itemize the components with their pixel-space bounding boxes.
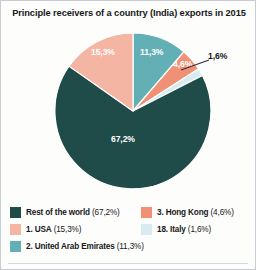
legend-label-united-arab-emirates: 2. United Arab Emirates (11,3%)	[26, 242, 144, 251]
legend-label-italy: 18. Italy (1,6%)	[157, 225, 211, 234]
legend-label-hong-kong: 3. Hong Kong (4,6%)	[157, 208, 234, 217]
legend-name-rest-of-the-world: Rest of the world	[26, 208, 90, 217]
slice-label-usa: 15,3%	[91, 47, 115, 57]
legend-swatch-united-arab-emirates	[10, 241, 21, 252]
pie-chart: 15,3% 11,3% 4,6% 67,2%	[53, 31, 213, 191]
legend-name-hong-kong: 3. Hong Kong	[157, 208, 208, 217]
legend-name-italy: 18. Italy	[157, 225, 186, 234]
pie-svg	[53, 31, 213, 191]
legend-name-united-arab-emirates: 2. United Arab Emirates	[26, 242, 115, 251]
legend-label-rest-of-the-world: Rest of the world (67,2%)	[26, 208, 120, 217]
legend-name-usa: 1. USA	[26, 225, 52, 234]
legend-column-right: 3. Hong Kong (4,6%) 18. Italy (1,6%)	[141, 204, 251, 238]
legend-swatch-hong-kong	[141, 207, 152, 218]
italy-leader-line	[181, 59, 211, 73]
legend-item-usa[interactable]: 1. USA (15,3%)	[10, 221, 140, 237]
legend-item-united-arab-emirates[interactable]: 2. United Arab Emirates (11,3%)	[10, 238, 140, 254]
legend-label-usa: 1. USA (15,3%)	[26, 225, 81, 234]
slice-label-rest-of-the-world: 67,2%	[111, 134, 135, 144]
legend-pct-united-arab-emirates: (11,3%)	[117, 242, 144, 251]
legend-swatch-rest-of-the-world	[10, 207, 21, 218]
legend-item-italy[interactable]: 18. Italy (1,6%)	[141, 221, 251, 237]
legend-pct-italy: (1,6%)	[188, 225, 211, 234]
legend-swatch-usa	[10, 224, 21, 235]
legend-column-left: Rest of the world (67,2%) 1. USA (15,3%)…	[10, 204, 140, 255]
chart-card: Principle receivers of a country (India)…	[0, 0, 256, 270]
bottom-divider	[8, 263, 248, 264]
slice-label-italy: 1,6%	[208, 51, 227, 61]
legend-pct-hong-kong: (4,6%)	[211, 208, 234, 217]
legend-pct-usa: (15,3%)	[54, 225, 82, 234]
legend-item-rest-of-the-world[interactable]: Rest of the world (67,2%)	[10, 204, 140, 220]
legend-swatch-italy	[141, 224, 152, 235]
legend-pct-rest-of-the-world: (67,2%)	[92, 208, 120, 217]
slice-label-united-arab-emirates: 11,3%	[140, 47, 163, 57]
legend-item-hong-kong[interactable]: 3. Hong Kong (4,6%)	[141, 204, 251, 220]
chart-title: Principle receivers of a country (India)…	[1, 8, 256, 19]
